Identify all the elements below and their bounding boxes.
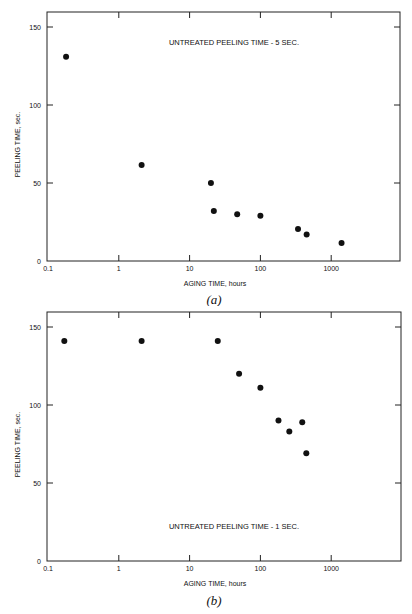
data-point [236, 371, 242, 377]
data-point [234, 211, 240, 217]
chart-annotation: UNTREATED PEELING TIME - 1 SEC. [169, 522, 299, 531]
y-tick-label: 50 [33, 180, 41, 187]
x-tick-label: 1000 [323, 565, 339, 572]
scatter-chart-a: 0.11101001000050100150AGING TIME, hoursP… [0, 0, 412, 306]
y-tick-label: 100 [29, 102, 41, 109]
x-tick-label: 100 [255, 265, 267, 272]
plot-frame [47, 12, 400, 261]
scatter-chart-b: 0.11101001000050100150AGING TIME, hoursP… [0, 300, 412, 614]
x-tick-label: 10 [186, 265, 194, 272]
y-tick-label: 0 [37, 258, 41, 265]
data-point [257, 385, 263, 391]
x-tick-label: 1 [117, 565, 121, 572]
data-point [208, 180, 214, 186]
data-point [215, 338, 221, 344]
panel-caption: (b) [206, 593, 221, 608]
data-point [139, 338, 145, 344]
x-tick-label: 10 [186, 565, 194, 572]
y-tick-label: 150 [29, 324, 41, 331]
y-axis-label: PEELING TIME, sec. [14, 112, 21, 178]
x-axis-label: AGING TIME, hours [184, 280, 247, 287]
data-point [295, 226, 301, 232]
x-tick-label: 100 [255, 565, 267, 572]
data-point [286, 429, 292, 435]
y-axis-label: PEELING TIME, sec. [14, 412, 21, 478]
data-point [257, 213, 263, 219]
data-point [211, 208, 217, 214]
chart-annotation: UNTREATED PEELING TIME - 5 SEC. [169, 38, 299, 47]
y-tick-label: 50 [33, 480, 41, 487]
y-tick-label: 150 [29, 24, 41, 31]
data-point [303, 450, 309, 456]
chart-panel-a: 0.11101001000050100150AGING TIME, hoursP… [0, 0, 412, 306]
data-point [299, 419, 305, 425]
y-tick-label: 100 [29, 402, 41, 409]
x-tick-label: 1000 [323, 265, 339, 272]
data-point [139, 162, 145, 168]
data-point [339, 240, 345, 246]
x-tick-label: 1 [117, 265, 121, 272]
x-axis-label: AGING TIME, hours [184, 580, 247, 587]
data-point [275, 418, 281, 424]
data-point [61, 338, 67, 344]
chart-panel-b: 0.11101001000050100150AGING TIME, hoursP… [0, 300, 412, 614]
data-point [304, 231, 310, 237]
data-point [63, 54, 69, 60]
y-tick-label: 0 [37, 558, 41, 565]
x-tick-label: 0.1 [43, 565, 53, 572]
x-tick-label: 0.1 [43, 265, 53, 272]
